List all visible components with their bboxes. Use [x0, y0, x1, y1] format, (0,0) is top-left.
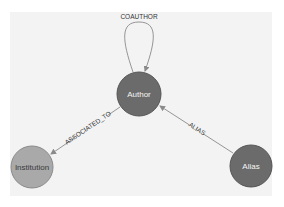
node-alias[interactable]: Alias — [230, 145, 272, 187]
edge-associated-to[interactable]: ASSOCIATED_TO — [51, 107, 120, 154]
node-label-author: Author — [127, 90, 151, 99]
node-author[interactable]: Author — [117, 72, 161, 116]
graph-svg: COAUTHOR ASSOCIATED_TO ALIAS Author Inst… — [0, 0, 284, 207]
edge-alias[interactable]: ALIAS — [160, 106, 233, 153]
edge-label-associated-to: ASSOCIATED_TO — [63, 110, 112, 147]
node-label-alias: Alias — [242, 162, 259, 171]
node-label-institution: Institution — [15, 163, 49, 172]
edge-coauthor[interactable]: COAUTHOR — [120, 13, 158, 72]
node-institution[interactable]: Institution — [11, 146, 53, 188]
edge-label-coauthor: COAUTHOR — [120, 13, 158, 20]
